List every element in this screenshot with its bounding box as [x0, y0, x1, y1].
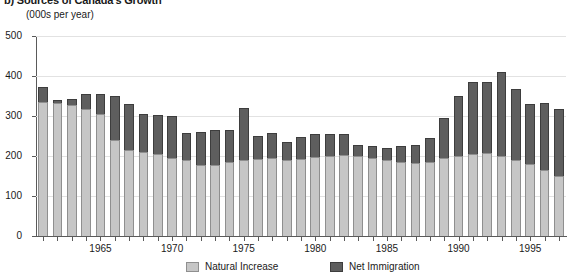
- bar-segment-net-immigration: [110, 96, 120, 140]
- y-axis-tick-label: 500: [5, 31, 22, 41]
- bar-group: [511, 89, 521, 236]
- x-axis-tick: [301, 237, 302, 241]
- bar-group: [81, 94, 91, 236]
- y-axis-tick-label: 200: [5, 151, 22, 161]
- bar-group: [497, 72, 507, 236]
- bar-segment-natural-increase: [96, 114, 106, 236]
- bar-segment-net-immigration: [239, 108, 249, 160]
- bar-segment-natural-increase: [497, 156, 507, 236]
- bar-group: [124, 104, 134, 236]
- chart-legend: Natural IncreaseNet Immigration: [0, 261, 572, 277]
- x-axis-tick: [43, 237, 44, 241]
- x-axis-tick-label: 1975: [233, 243, 255, 254]
- x-axis-tick-label: 1990: [447, 243, 469, 254]
- x-axis-tick: [72, 237, 73, 241]
- x-axis-tick-label: 1965: [89, 243, 111, 254]
- x-axis-tick: [115, 237, 116, 241]
- bar-segment-natural-increase: [439, 158, 449, 236]
- x-axis-tick: [401, 237, 402, 241]
- x-axis-tick: [215, 237, 216, 241]
- natural-increase-swatch: [186, 262, 199, 272]
- bar-group: [167, 116, 177, 236]
- bar-segment-net-immigration: [497, 72, 507, 156]
- x-axis-tick: [100, 237, 101, 241]
- bar-segment-natural-increase: [210, 165, 220, 236]
- bar-segment-net-immigration: [325, 134, 335, 157]
- bar-segment-net-immigration: [411, 145, 421, 163]
- x-axis-tick-label: 1985: [376, 243, 398, 254]
- bar-segment-net-immigration: [124, 104, 134, 150]
- bar-segment-natural-increase: [239, 160, 249, 236]
- bar-group: [153, 115, 163, 236]
- bar-segment-net-immigration: [525, 104, 535, 164]
- bar-segment-natural-increase: [196, 165, 206, 236]
- x-axis-tick: [516, 237, 517, 241]
- bar-group: [310, 134, 320, 236]
- x-axis-tick: [545, 237, 546, 241]
- bar-group: [239, 108, 249, 236]
- bar-group: [425, 138, 435, 236]
- y-axis-tick-label: 100: [5, 191, 22, 201]
- x-axis-tick: [444, 237, 445, 241]
- bar-group: [282, 142, 292, 236]
- x-axis-tick: [502, 237, 503, 241]
- bar-segment-natural-increase: [482, 153, 492, 236]
- bar-segment-net-immigration: [439, 118, 449, 157]
- x-axis-tick: [373, 237, 374, 241]
- bar-segment-natural-increase: [310, 157, 320, 236]
- bar-segment-natural-increase: [139, 152, 149, 236]
- bar-group: [382, 148, 392, 236]
- bar-group: [67, 99, 77, 236]
- bar-segment-natural-increase: [339, 155, 349, 236]
- bar-segment-net-immigration: [310, 134, 320, 158]
- bar-group: [396, 146, 406, 236]
- bar-group: [96, 94, 106, 236]
- bar-segment-natural-increase: [182, 160, 192, 236]
- x-axis-tick-label: 1970: [161, 243, 183, 254]
- bar-segment-natural-increase: [325, 156, 335, 236]
- bar-group: [525, 104, 535, 236]
- legend-item: Natural Increase: [186, 261, 278, 272]
- x-axis-tick: [430, 237, 431, 241]
- bar-segment-natural-increase: [525, 164, 535, 236]
- x-axis-tick: [344, 237, 345, 241]
- bar-segment-net-immigration: [210, 130, 220, 164]
- bar-segment-net-immigration: [296, 137, 306, 159]
- legend-item-label: Net Immigration: [349, 261, 420, 272]
- y-axis-labels: 5004003002001000: [0, 36, 30, 237]
- bar-segment-natural-increase: [368, 158, 378, 236]
- bar-group: [296, 137, 306, 236]
- bar-group: [439, 118, 449, 236]
- x-axis-tick: [186, 237, 187, 241]
- bar-segment-natural-increase: [425, 162, 435, 236]
- bar-group: [368, 146, 378, 236]
- bar-group: [53, 100, 63, 236]
- x-axis-tick: [416, 237, 417, 241]
- x-axis-tick: [258, 237, 259, 241]
- bar-segment-natural-increase: [282, 160, 292, 236]
- bar-segment-net-immigration: [425, 138, 435, 161]
- x-axis-tick: [244, 237, 245, 241]
- bar-segment-natural-increase: [353, 156, 363, 236]
- bar-group: [353, 145, 363, 236]
- bar-group: [110, 96, 120, 236]
- net-immigration-swatch: [330, 262, 343, 272]
- bar-group: [325, 134, 335, 236]
- bar-segment-natural-increase: [81, 109, 91, 236]
- bar-segment-natural-increase: [153, 154, 163, 236]
- bar-segment-net-immigration: [96, 94, 106, 114]
- bar-segment-natural-increase: [124, 150, 134, 236]
- x-axis-tick: [530, 237, 531, 241]
- bar-group: [267, 133, 277, 236]
- bar-segment-net-immigration: [196, 132, 206, 164]
- bar-segment-net-immigration: [267, 133, 277, 159]
- x-axis-tick: [143, 237, 144, 241]
- x-axis-tick: [201, 237, 202, 241]
- x-axis-tick: [330, 237, 331, 241]
- x-axis-tick: [86, 237, 87, 241]
- x-axis-tick: [172, 237, 173, 241]
- chart-figure: b) Sources of Canada's Growth (000s per …: [0, 0, 572, 279]
- bar-segment-natural-increase: [267, 158, 277, 236]
- bar-group: [225, 130, 235, 236]
- bar-segment-natural-increase: [253, 159, 263, 236]
